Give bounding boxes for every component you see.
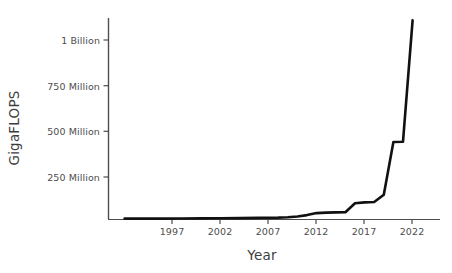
x-tick-label-1997: 1997	[160, 226, 185, 237]
x-tick-label-2007: 2007	[256, 226, 281, 237]
axis-spines	[108, 18, 440, 220]
x-tick-label-2017: 2017	[352, 226, 377, 237]
y-tick-label-500million: 500 Million	[30, 126, 100, 137]
x-tick-label-2022: 2022	[400, 226, 425, 237]
gigaflops-line-chart: 1 Billion 750 Million 500 Million 250 Mi…	[0, 0, 452, 273]
performance-data-line	[125, 20, 413, 218]
x-tick-label-2012: 2012	[304, 226, 329, 237]
x-tick-label-2002: 2002	[208, 226, 233, 237]
y-tick-label-1billion: 1 Billion	[30, 35, 100, 46]
y-axis-title: GigaFLOPS	[6, 91, 22, 166]
x-axis-ticks	[172, 220, 412, 225]
x-axis-title: Year	[247, 247, 276, 263]
y-tick-label-750million: 750 Million	[30, 81, 100, 92]
y-tick-label-250million: 250 Million	[30, 172, 100, 183]
y-axis-ticks	[104, 40, 109, 177]
